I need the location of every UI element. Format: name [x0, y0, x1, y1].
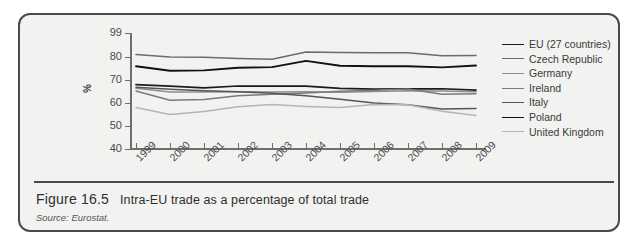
x-tick-mark	[204, 143, 205, 149]
x-tick-mark	[442, 143, 443, 149]
figure-title: Intra-EU trade as a percentage of total …	[120, 193, 369, 207]
legend-label: Italy	[529, 97, 548, 108]
x-tick-mark	[374, 143, 375, 149]
legend-color-swatch	[502, 44, 524, 45]
legend-item[interactable]: Germany	[502, 66, 622, 81]
legend-item[interactable]: United Kingdom	[502, 125, 622, 140]
legend-label: United Kingdom	[529, 127, 604, 138]
legend-label: Czech Republic	[529, 54, 603, 65]
figure-number: Figure 16.5	[36, 191, 109, 207]
x-tick-mark	[340, 143, 341, 149]
legend-color-swatch	[502, 88, 524, 89]
y-tick-label: 70	[96, 74, 122, 85]
y-axis-title: %	[82, 84, 93, 93]
figure-source: Source: Eurostat.	[36, 212, 109, 223]
series-line	[136, 52, 476, 59]
chart-legend: EU (27 countries)Czech RepublicGermanyIr…	[502, 37, 622, 139]
x-tick-mark	[238, 143, 239, 149]
figure-container: % 998070605040 1999200020012002200320042…	[18, 13, 620, 232]
legend-color-swatch	[502, 131, 524, 132]
x-tick-mark	[272, 143, 273, 149]
y-tick-label: 60	[96, 97, 122, 108]
legend-label: EU (27 countries)	[529, 39, 611, 50]
y-tick-label: 40	[96, 143, 122, 154]
legend-label: Germany	[529, 68, 572, 79]
y-tick-mark	[125, 80, 131, 81]
series-line	[136, 61, 476, 71]
legend-color-swatch	[502, 73, 524, 74]
caption-divider	[34, 181, 614, 183]
legend-item[interactable]: EU (27 countries)	[502, 37, 622, 52]
legend-item[interactable]: Ireland	[502, 81, 622, 96]
legend-label: Ireland	[529, 83, 561, 94]
legend-label: Poland	[529, 112, 562, 123]
y-tick-mark	[125, 126, 131, 127]
legend-item[interactable]: Italy	[502, 95, 622, 110]
y-tick-mark	[125, 103, 131, 104]
chart-lines	[130, 33, 486, 149]
x-tick-mark	[136, 143, 137, 149]
x-tick-mark	[306, 143, 307, 149]
legend-color-swatch	[502, 117, 524, 118]
figure-caption: Figure 16.5 Intra-EU trade as a percenta…	[36, 191, 369, 207]
y-tick-mark	[125, 57, 131, 58]
x-tick-mark	[408, 143, 409, 149]
legend-color-swatch	[502, 102, 524, 103]
y-tick-label: 50	[96, 120, 122, 131]
y-tick-label: 99	[96, 27, 122, 38]
x-tick-mark	[170, 143, 171, 149]
y-tick-label: 80	[96, 51, 122, 62]
y-tick-mark	[125, 149, 131, 150]
x-tick-mark	[476, 143, 477, 149]
legend-item[interactable]: Poland	[502, 110, 622, 125]
series-line	[136, 104, 476, 115]
legend-color-swatch	[502, 58, 524, 59]
y-axis-tick-labels: 998070605040	[94, 15, 122, 175]
legend-item[interactable]: Czech Republic	[502, 52, 622, 67]
y-tick-mark	[125, 33, 131, 34]
